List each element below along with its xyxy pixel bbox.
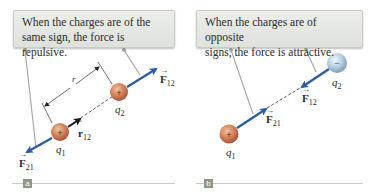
panel-b: + − When the charges are of opposite sig… — [0, 0, 383, 196]
charge-q1: + — [220, 125, 239, 144]
caption-line: signs, the force is attractive. — [205, 45, 354, 60]
label-f21: →F21 — [266, 113, 281, 128]
separation-line — [267, 88, 300, 108]
panel-baseline — [196, 183, 363, 184]
panel-label-b: b — [204, 179, 213, 188]
force-arrow-f21 — [237, 109, 266, 128]
label-f12: →F12 — [302, 92, 317, 107]
caption-box: When the charges are of opposite signs, … — [196, 10, 363, 48]
label-q2: q2 — [332, 76, 342, 91]
label-q1: q1 — [226, 146, 236, 161]
caption-line: When the charges are of opposite — [205, 15, 354, 45]
svg-text:+: + — [226, 130, 231, 140]
